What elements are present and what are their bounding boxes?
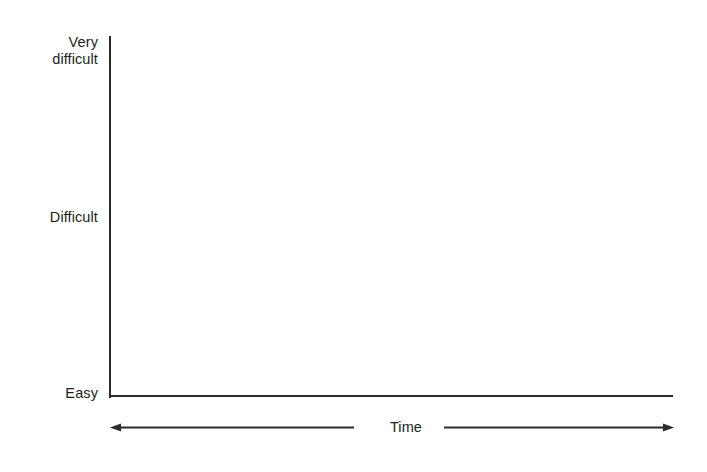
y-axis-line	[109, 36, 111, 398]
x-axis-label: Time	[382, 418, 430, 436]
x-axis-line	[109, 395, 673, 397]
y-tick-label-very-difficult: Very difficult	[52, 34, 98, 68]
time-axis-group: Time	[110, 420, 674, 436]
y-tick-label-difficult: Difficult	[50, 209, 98, 226]
y-tick-label-difficult-line1: Difficult	[50, 209, 98, 226]
y-tick-label-very-difficult-line1: Very	[52, 34, 98, 51]
chart-canvas: Very difficult Difficult Easy Time	[0, 0, 707, 472]
y-tick-label-very-difficult-line2: difficult	[52, 51, 98, 68]
y-tick-label-easy-line1: Easy	[65, 385, 98, 402]
y-tick-label-easy: Easy	[65, 385, 98, 402]
